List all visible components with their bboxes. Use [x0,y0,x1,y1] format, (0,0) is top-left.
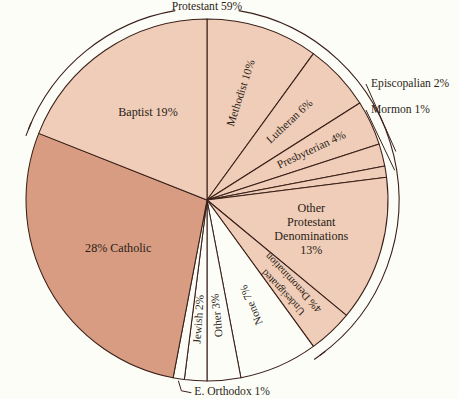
slice-label-baptist: Baptist 19% [118,105,177,119]
slice-label-catholic: 28% Catholic [85,241,151,255]
leader-line-e-orthodox [178,381,191,393]
group-label-protestant: Protestant 59% [172,0,243,13]
protestant-bracket-tick-start [26,123,31,136]
slice-label-episcopalian: Episcopalian 2% [371,77,450,90]
slice-label-e-orthodox: E. Orthodox 1% [194,385,270,398]
slice-label-other-protestant-line1: Other [298,201,326,215]
slice-label-mormon: Mormon 1% [371,103,430,116]
pie-chart-figure: Methodist 10%Lutheran 6%Presbyterian 4%N… [0,0,458,399]
pie-chart-svg: Methodist 10%Lutheran 6%Presbyterian 4%N… [0,0,458,399]
slice-label-other-protestant-line3: Denominations [274,229,348,243]
slice-label-other-protestant-line4: 13% [300,243,322,257]
pie-slices-group [26,19,388,381]
slice-label-other-protestant-line2: Protestant [287,215,336,229]
protestant-bracket-tick-end [314,351,325,359]
